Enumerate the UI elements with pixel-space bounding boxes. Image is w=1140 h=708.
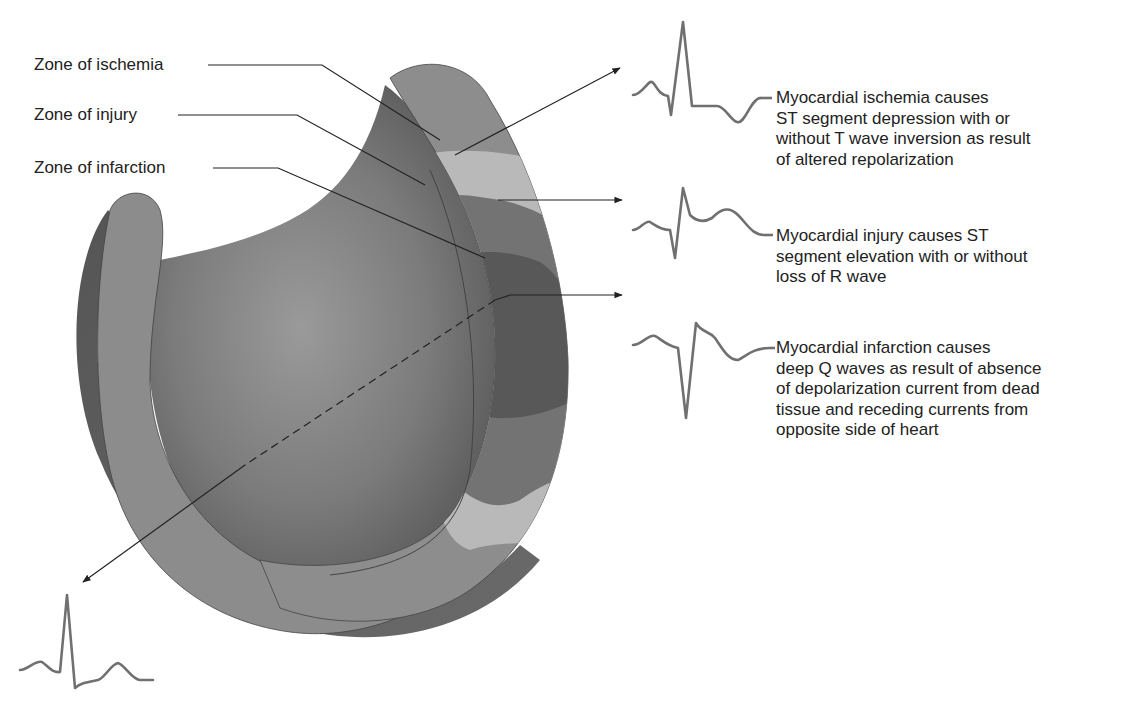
zone-label-infarction: Zone of infarction: [34, 158, 165, 178]
injury-ecg-icon: [633, 188, 765, 258]
description-infarction: Myocardial infarction causes deep Q wave…: [776, 338, 1042, 441]
ecg-text-connectors: [760, 98, 775, 348]
zone-label-ischemia: Zone of ischemia: [34, 55, 163, 75]
ischemia-ecg-icon: [633, 22, 760, 122]
opposite-side-ecg-icon: [20, 595, 153, 688]
description-ischemia: Myocardial ischemia causes ST segment de…: [776, 88, 1031, 170]
zone-label-injury: Zone of injury: [34, 105, 137, 125]
infarction-ecg-icon: [633, 323, 770, 418]
description-injury: Myocardial injury causes ST segment elev…: [776, 226, 1027, 288]
